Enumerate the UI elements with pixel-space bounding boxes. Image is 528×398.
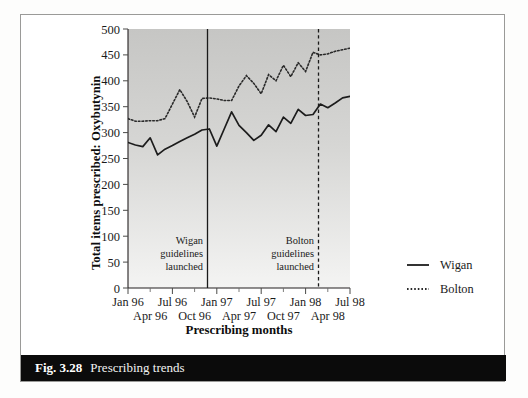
bolton-annotation-line-3: launched bbox=[276, 261, 314, 272]
x-tick-label-upper: Jan 96 bbox=[112, 295, 143, 309]
figure-frame: 050100150200250300350400450500 Jan 96Jul… bbox=[20, 14, 505, 382]
y-tick-label: 250 bbox=[101, 152, 120, 166]
y-tick-label: 350 bbox=[101, 100, 120, 114]
chart-svg: 050100150200250300350400450500 Jan 96Jul… bbox=[21, 15, 506, 345]
y-tick-label: 200 bbox=[101, 178, 120, 192]
y-tick-label: 150 bbox=[101, 204, 120, 218]
y-tick-group: 050100150200250300350400450500 bbox=[101, 23, 128, 296]
y-tick-label: 400 bbox=[101, 74, 120, 88]
legend: Wigan Bolton bbox=[407, 258, 474, 296]
x-tick-label-upper: Jan 97 bbox=[201, 295, 232, 309]
x-tick-label-upper: Jul 96 bbox=[158, 295, 187, 309]
figure-number: Fig. 3.28 bbox=[35, 360, 82, 376]
x-tick-label-lower: Oct 96 bbox=[178, 309, 211, 323]
y-tick-label: 0 bbox=[114, 282, 120, 296]
y-tick-label: 300 bbox=[101, 126, 120, 140]
y-tick-label: 450 bbox=[101, 48, 120, 62]
legend-label-bolton: Bolton bbox=[440, 282, 474, 296]
bolton-annotation-line-1: Bolton bbox=[286, 235, 315, 246]
legend-label-wigan: Wigan bbox=[440, 258, 473, 272]
wigan-annotation-line-2: guidelines bbox=[160, 248, 203, 259]
y-axis: 050100150200250300350400450500 bbox=[101, 23, 128, 296]
figure-caption-bar: Fig. 3.28 Prescribing trends bbox=[21, 355, 506, 381]
wigan-annotation-line-3: launched bbox=[165, 261, 203, 272]
y-tick-label: 50 bbox=[108, 256, 121, 270]
x-tick-label-lower: Apr 96 bbox=[133, 309, 167, 323]
x-tick-label-upper: Jul 98 bbox=[335, 295, 364, 309]
bolton-annotation-line-2: guidelines bbox=[271, 248, 314, 259]
chart-canvas: 050100150200250300350400450500 Jan 96Jul… bbox=[21, 15, 506, 345]
x-axis-title: Prescribing months bbox=[186, 323, 293, 337]
y-tick-label: 500 bbox=[101, 23, 120, 37]
x-tick-label-upper: Jul 97 bbox=[246, 295, 275, 309]
wigan-annotation-line-1: Wigan bbox=[176, 235, 204, 246]
figure-caption-text: Prescribing trends bbox=[90, 360, 184, 376]
x-axis: Jan 96Jul 96Jan 97Jul 97Jan 98Jul 98Apr … bbox=[112, 288, 364, 323]
x-tick-group: Jan 96Jul 96Jan 97Jul 97Jan 98Jul 98Apr … bbox=[112, 288, 364, 323]
x-tick-label-lower: Apr 97 bbox=[222, 309, 256, 323]
y-tick-label: 100 bbox=[101, 230, 120, 244]
x-tick-label-lower: Oct 97 bbox=[267, 309, 300, 323]
y-axis-title: Total items prescribed: Oxybutynin bbox=[89, 76, 103, 270]
x-tick-label-lower: Apr 98 bbox=[311, 309, 345, 323]
x-tick-label-upper: Jan 98 bbox=[290, 295, 321, 309]
